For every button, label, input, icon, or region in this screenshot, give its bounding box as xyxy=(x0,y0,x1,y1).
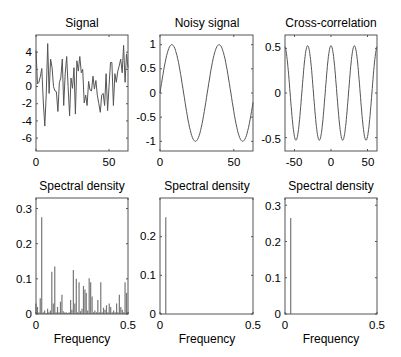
panel-spectral-density-2: Spectral density 0 0.5 0 0.1 0.2 Frequen… xyxy=(140,179,261,346)
y-tick-label: 0.1 xyxy=(265,272,281,284)
y-tick-label: 0 xyxy=(26,80,32,92)
cross-correlation-line xyxy=(285,46,377,141)
y-tick-label: -0.5 xyxy=(136,111,156,123)
x-tick-label: 0 xyxy=(33,156,39,168)
panel-spectral-density-3: Spectral density 0 0.5 0 0.1 0.2 0.3 Fre… xyxy=(265,179,385,346)
x-axis-label: Frequency xyxy=(303,332,360,346)
x-tick-label: 50 xyxy=(362,156,375,168)
signal-line xyxy=(36,44,128,127)
y-tick-label: 4 xyxy=(26,46,33,58)
y-tick-label: 0.5 xyxy=(140,62,156,74)
panel-title: Spectral density xyxy=(39,179,124,193)
x-tick-label: 0 xyxy=(33,319,39,331)
y-tick-label: 0.1 xyxy=(16,273,32,285)
x-axis-label: Frequency xyxy=(54,332,111,346)
y-tick-label: 0 xyxy=(26,308,32,320)
y-tick-label: 0 xyxy=(275,87,281,99)
x-tick-label: -50 xyxy=(286,156,303,168)
x-tick-label: 50 xyxy=(228,156,241,168)
y-tick-label: 0.2 xyxy=(16,238,32,250)
x-tick-label: 0.5 xyxy=(245,319,261,331)
y-tick-label: -6 xyxy=(22,132,32,144)
figure: Signal 0 50 4 2 0 -2 -4 -6 Noisy signal … xyxy=(0,0,401,357)
axes-box xyxy=(36,198,128,314)
y-tick-label: 0 xyxy=(275,308,281,320)
axes-box xyxy=(285,35,377,151)
noisy-signal-line xyxy=(160,45,253,142)
y-tick-label: -2 xyxy=(22,97,32,109)
tick-marks xyxy=(285,35,377,151)
x-tick-label: 0 xyxy=(157,156,163,168)
panel-title: Spectral density xyxy=(288,179,373,193)
x-tick-label: 0 xyxy=(282,319,288,331)
panel-title: Signal xyxy=(65,16,98,30)
y-tick-label: -1 xyxy=(146,135,156,147)
panel-title: Cross-correlation xyxy=(285,16,376,30)
y-tick-label: 0 xyxy=(150,308,156,320)
x-axis-label: Frequency xyxy=(179,332,236,346)
x-tick-label: 0 xyxy=(157,319,163,331)
x-tick-label: 0 xyxy=(328,156,334,168)
axes-box xyxy=(285,198,377,314)
y-tick-label: 0.3 xyxy=(265,200,281,212)
axes-box xyxy=(160,35,253,151)
y-tick-label: -0.5 xyxy=(261,133,281,145)
tick-marks xyxy=(285,198,377,314)
y-tick-label: 0 xyxy=(150,87,156,99)
y-tick-label: 2 xyxy=(26,63,32,75)
tick-marks xyxy=(160,35,253,151)
panel-spectral-density-1: Spectral density 0 0.5 0 0.1 0.2 0.3 Fre… xyxy=(16,179,136,346)
panel-noisy-signal: Noisy signal 0 50 1 0.5 0 -0.5 -1 xyxy=(136,16,253,168)
x-tick-label: 50 xyxy=(103,156,116,168)
tick-marks xyxy=(160,198,253,314)
panel-title: Spectral density xyxy=(164,179,249,193)
panel-signal: Signal 0 50 4 2 0 -2 -4 -6 xyxy=(22,16,128,168)
y-tick-label: 0.3 xyxy=(16,203,32,215)
y-tick-label: -4 xyxy=(22,115,33,127)
y-tick-label: 0.2 xyxy=(265,236,281,248)
axes-box xyxy=(160,198,253,314)
y-tick-label: 1 xyxy=(150,38,156,50)
panel-title: Noisy signal xyxy=(175,16,240,30)
y-tick-label: 0.2 xyxy=(140,230,156,242)
y-tick-label: 0.5 xyxy=(265,41,281,53)
tick-marks xyxy=(36,198,128,314)
y-tick-label: 0.1 xyxy=(140,269,156,281)
spectral-bars xyxy=(36,217,128,314)
x-tick-label: 0.5 xyxy=(120,319,136,331)
x-tick-label: 0.5 xyxy=(369,319,385,331)
panel-cross-correlation: Cross-correlation -50 0 50 0.5 0 -0.5 xyxy=(261,16,377,168)
